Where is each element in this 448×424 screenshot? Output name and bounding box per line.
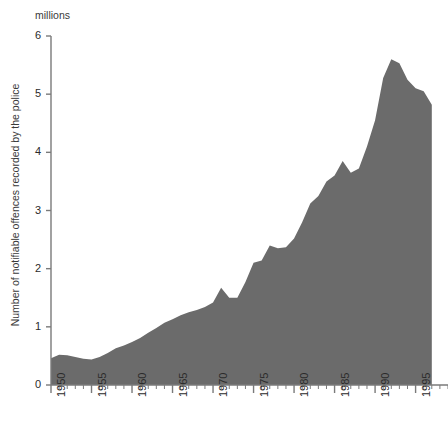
x-tick-label: 1960 <box>137 373 148 397</box>
x-tick-label: 1965 <box>178 373 189 397</box>
plot-area <box>0 0 448 424</box>
y-tick-label: 0 <box>21 379 41 390</box>
y-tick-label: 3 <box>21 205 41 216</box>
x-tick-label: 1955 <box>97 373 108 397</box>
x-tick-label: 1950 <box>56 373 67 397</box>
x-tick-label: 1975 <box>259 373 270 397</box>
y-tick-label: 5 <box>21 88 41 99</box>
x-tick-label: 1995 <box>421 373 432 397</box>
x-tick-label: 1985 <box>340 373 351 397</box>
y-axis-ticks <box>46 36 51 385</box>
chart-container: millions Number of notifiable offences r… <box>0 0 448 424</box>
y-tick-label: 6 <box>21 30 41 41</box>
x-tick-label: 1990 <box>380 373 391 397</box>
y-tick-label: 4 <box>21 146 41 157</box>
y-tick-label: 2 <box>21 263 41 274</box>
x-tick-label: 1980 <box>299 373 310 397</box>
area-series <box>51 59 432 385</box>
y-tick-label: 1 <box>21 321 41 332</box>
x-tick-label: 1970 <box>218 373 229 397</box>
area-series-path <box>51 59 432 385</box>
